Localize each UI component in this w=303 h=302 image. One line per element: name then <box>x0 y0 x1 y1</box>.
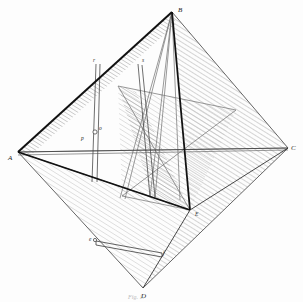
vertex-label-B: B <box>178 6 183 14</box>
vertex-label-E: E <box>194 211 199 217</box>
point-label-o: o <box>99 125 102 131</box>
point-label-r: r <box>93 57 96 63</box>
figure-root: A B C D E p o r s e f Fig. 1. <box>0 0 303 302</box>
point-label-s: s <box>142 57 144 63</box>
vertex-label-C: C <box>291 144 296 152</box>
point-label-e: e <box>89 236 92 242</box>
node-o <box>93 130 97 134</box>
figure-caption: Fig. 1. <box>127 294 144 300</box>
vertex-label-A: A <box>7 154 13 162</box>
node-e <box>93 238 96 241</box>
point-label-p: p <box>80 135 84 141</box>
geometric-diagram: A B C D E p o r s e f Fig. 1. <box>0 0 303 302</box>
